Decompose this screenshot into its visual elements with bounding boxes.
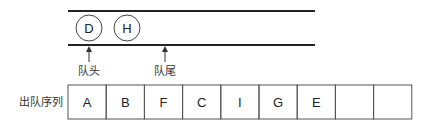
queue-element-label: H <box>122 21 131 36</box>
tail-arrow-icon <box>162 46 168 62</box>
sequence-cell: I <box>221 85 259 119</box>
tail-label: 队尾 <box>154 64 176 77</box>
sequence-cell <box>335 85 373 119</box>
sequence-cell-value: F <box>160 95 168 110</box>
queue-diagram: D H 队头 队尾 出队序列 ABFCIGE <box>0 0 437 130</box>
sequence-cell-value: A <box>83 95 92 110</box>
sequence-cell: A <box>68 85 106 119</box>
queue-element: D <box>76 15 102 41</box>
sequence-cell <box>374 85 412 119</box>
sequence-cell: F <box>144 85 182 119</box>
sequence-cell-value: C <box>197 95 206 110</box>
sequence-cell-value: E <box>312 95 321 110</box>
sequence-cell-value: B <box>121 95 130 110</box>
head-arrow-icon <box>86 46 92 62</box>
sequence-cell-value: G <box>273 95 283 110</box>
sequence-cell-value: I <box>238 95 242 110</box>
sequence-cell: E <box>297 85 335 119</box>
queue-element-label: D <box>84 21 93 36</box>
sequence-cell: B <box>106 85 144 119</box>
queue-element: H <box>114 15 140 41</box>
dequeue-sequence-label: 出队序列 <box>19 95 63 108</box>
sequence-cell: G <box>259 85 297 119</box>
dequeue-sequence-table: ABFCIGE <box>68 85 412 119</box>
sequence-cell: C <box>183 85 221 119</box>
head-label: 队头 <box>78 64 100 77</box>
